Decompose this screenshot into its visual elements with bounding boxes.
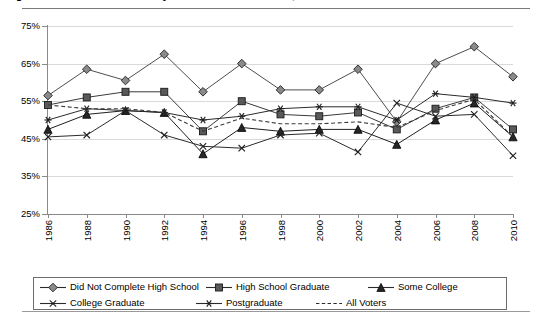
x-axis-tick <box>164 214 165 218</box>
legend-item[interactable]: Postgraduate <box>194 295 283 310</box>
series-line <box>48 94 513 120</box>
data-point-asterisk-marker <box>393 117 400 123</box>
data-point-triangle-marker <box>83 110 91 118</box>
series-line <box>48 99 513 137</box>
legend-item-label: All Voters <box>344 297 386 308</box>
data-point-x-marker <box>239 145 245 151</box>
x-axis-tick <box>513 214 514 218</box>
data-point-square-marker <box>471 94 478 101</box>
data-point-triangle-marker <box>354 125 362 133</box>
data-point-diamond-marker <box>392 118 401 127</box>
series-line <box>48 103 513 154</box>
legend-key-asterisk <box>194 296 224 309</box>
legend-item[interactable]: Did Not Complete High School <box>38 279 199 294</box>
data-point-asterisk-marker <box>316 104 323 110</box>
x-axis-tick-label: 1994 <box>198 220 209 241</box>
legend-item[interactable]: College Graduate <box>38 295 144 310</box>
x-axis-tick-label: 2006 <box>431 220 442 241</box>
data-point-square-marker <box>200 128 207 135</box>
y-axis-line <box>47 25 48 215</box>
x-axis-tick-label: 1986 <box>43 220 54 241</box>
y-axis-tick-label: 45% <box>0 134 40 144</box>
legend-item[interactable]: Some College <box>366 279 458 294</box>
data-point-square-marker <box>83 94 90 101</box>
data-point-square-marker <box>316 113 323 120</box>
data-point-diamond-marker <box>509 72 518 81</box>
data-point-x-marker <box>510 153 516 159</box>
x-axis-tick <box>397 214 398 218</box>
x-axis-tick <box>87 214 88 218</box>
data-point-square-marker <box>393 126 400 133</box>
legend-row: College GraduatePostgraduateAll Voters <box>34 295 508 310</box>
data-point-asterisk-marker <box>432 91 439 97</box>
x-axis-tick <box>281 214 282 218</box>
legend-key-x <box>38 296 68 309</box>
data-point-diamond-marker <box>354 65 363 74</box>
data-point-square-marker <box>45 101 52 108</box>
data-point-asterisk-marker <box>122 108 129 114</box>
data-point-diamond-marker <box>470 42 479 51</box>
series-postgraduate <box>44 91 516 123</box>
data-point-square-marker <box>122 88 129 95</box>
series-line <box>48 47 513 122</box>
data-point-square-marker <box>355 109 362 116</box>
legend-key-diamond <box>38 280 68 293</box>
bottom-divider-rule <box>22 311 530 312</box>
x-axis-tick <box>436 214 437 218</box>
series-did-not-complete-high-school <box>44 42 518 126</box>
data-point-x-marker <box>432 113 438 119</box>
legend-row: Did Not Complete High SchoolHigh School … <box>34 279 508 294</box>
x-axis-tick <box>358 214 359 218</box>
x-axis-tick-label: 2010 <box>508 220 519 241</box>
data-point-diamond-marker <box>49 283 58 292</box>
data-point-triangle-marker <box>121 107 129 115</box>
x-axis-tick-label: 2002 <box>353 220 364 241</box>
y-axis-tick-label: 55% <box>0 96 40 106</box>
data-point-asterisk-marker <box>277 106 284 112</box>
chart-legend: Did Not Complete High SchoolHigh School … <box>33 277 507 310</box>
data-point-x-marker <box>200 143 206 149</box>
data-point-asterisk-marker <box>354 104 361 110</box>
x-axis-tick-label: 1990 <box>121 220 132 241</box>
data-point-square-marker <box>161 88 168 95</box>
legend-key-triangle <box>366 280 396 293</box>
gridline <box>48 26 513 27</box>
data-point-square-marker <box>510 126 517 133</box>
gridline <box>48 64 513 65</box>
x-axis-tick <box>242 214 243 218</box>
data-point-x-marker <box>471 111 477 117</box>
series-high-school-graduate <box>45 88 517 134</box>
y-axis-tick-label: 35% <box>0 171 40 181</box>
data-point-x-marker <box>161 132 167 138</box>
data-point-diamond-marker <box>82 65 91 74</box>
data-point-triangle-marker <box>238 123 246 131</box>
data-point-asterisk-marker <box>83 106 90 112</box>
data-point-x-marker <box>122 107 128 113</box>
legend-item[interactable]: High School Graduate <box>204 279 329 294</box>
legend-key-square <box>204 280 234 293</box>
x-axis-tick <box>319 214 320 218</box>
legend-item-label: Postgraduate <box>224 297 283 308</box>
legend-key-dashed-line <box>314 296 344 309</box>
series-line <box>48 103 513 156</box>
data-point-asterisk-marker <box>471 94 478 100</box>
figure-title-text: Figure 1. Voter turnout rates by educati… <box>6 0 351 1</box>
legend-item[interactable]: All Voters <box>314 295 386 310</box>
gridline <box>48 101 513 102</box>
y-axis-tick-label: 25% <box>0 209 40 219</box>
legend-item-label: College Graduate <box>68 297 144 308</box>
x-axis-tick-label: 2004 <box>392 220 403 241</box>
data-point-square-marker <box>277 111 284 118</box>
data-point-asterisk-marker <box>238 113 245 119</box>
data-point-triangle-marker <box>199 150 207 158</box>
data-point-diamond-marker <box>44 91 53 100</box>
data-point-asterisk-marker <box>205 300 212 306</box>
y-axis-labels: 75%65%55%45%35%25% <box>0 0 40 230</box>
x-axis-tick <box>126 214 127 218</box>
data-point-x-marker <box>355 149 361 155</box>
data-point-triangle-marker <box>315 125 323 133</box>
gridline <box>48 176 513 177</box>
data-point-diamond-marker <box>315 86 324 95</box>
x-axis-tick-label: 1988 <box>82 220 93 241</box>
legend-item-label: Did Not Complete High School <box>68 281 199 292</box>
